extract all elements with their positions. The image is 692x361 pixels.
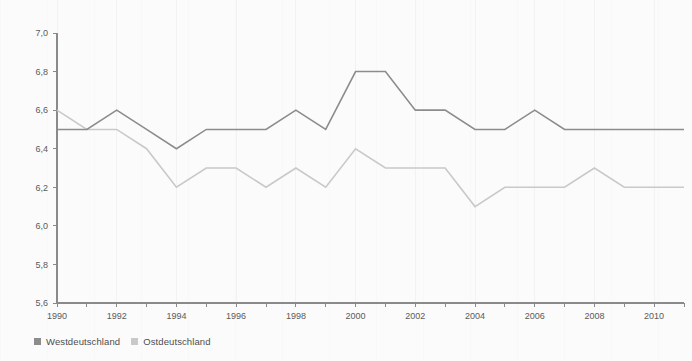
x-tick-label: 2000 (346, 311, 366, 321)
legend-label: Ostdeutschland (143, 336, 210, 347)
x-tick-label: 1992 (107, 311, 127, 321)
y-tick-label: 5,6 (35, 298, 48, 308)
x-tick-label: 2004 (465, 311, 485, 321)
chart-legend: WestdeutschlandOstdeutschland (34, 336, 211, 347)
x-tick-label: 1996 (226, 311, 246, 321)
x-tick-label: 2006 (525, 311, 545, 321)
y-tick-label: 6,4 (35, 144, 48, 154)
data-series-group (57, 72, 684, 207)
series-line-ostdeutschland (57, 110, 684, 206)
legend-item-ostdeutschland[interactable]: Ostdeutschland (131, 336, 210, 347)
x-tick-label: 1990 (47, 311, 67, 321)
y-tick-label: 6,0 (35, 221, 48, 231)
legend-swatch-icon (34, 338, 41, 345)
x-tick-label: 2002 (405, 311, 425, 321)
y-tick-label: 7,0 (35, 28, 48, 38)
chart-screenshot: 5,65,86,06,26,46,66,87,0 199019921994199… (0, 0, 692, 361)
x-tick-label: 1998 (286, 311, 306, 321)
y-tick-label: 5,8 (35, 260, 48, 270)
gridlines-group (57, 0, 654, 303)
axes-group (57, 33, 684, 303)
x-tick-label: 2010 (644, 311, 664, 321)
x-tick-label: 1994 (166, 311, 186, 321)
legend-label: Westdeutschland (46, 336, 120, 347)
y-tick-label: 6,8 (35, 67, 48, 77)
x-axis-ticks: 1990199219941996199820002002200420062008… (47, 303, 684, 321)
y-tick-label: 6,2 (35, 183, 48, 193)
y-tick-label: 6,6 (35, 105, 48, 115)
series-line-westdeutschland (57, 72, 684, 149)
x-tick-label: 2008 (584, 311, 604, 321)
y-axis-ticks: 5,65,86,06,26,46,66,87,0 (35, 28, 57, 308)
legend-swatch-icon (131, 338, 138, 345)
line-chart-svg: 5,65,86,06,26,46,66,87,0 199019921994199… (0, 0, 692, 361)
chart-plot-area: 5,65,86,06,26,46,66,87,0 199019921994199… (0, 0, 692, 361)
legend-item-westdeutschland[interactable]: Westdeutschland (34, 336, 120, 347)
